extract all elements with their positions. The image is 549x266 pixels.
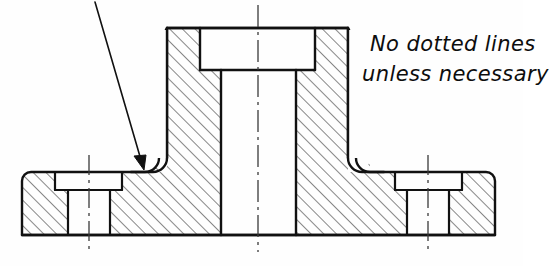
fillet-leader-arrow bbox=[95, 2, 146, 170]
annotation-line-2: unless necessary bbox=[362, 64, 549, 85]
annotation-line-1: No dotted lines bbox=[370, 34, 536, 55]
